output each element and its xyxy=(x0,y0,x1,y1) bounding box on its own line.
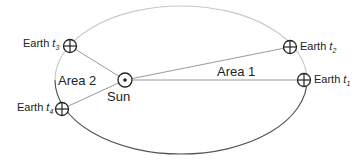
sun-label: Sun xyxy=(107,89,130,104)
time-subscript: 2 xyxy=(332,47,336,54)
earth-label-text: Earth xyxy=(23,37,49,49)
earth-t2-label: Earth t2 xyxy=(300,40,336,54)
earth-label-text: Earth xyxy=(314,73,340,85)
radius-t2 xyxy=(125,47,290,80)
earth-label-text: Earth xyxy=(17,101,43,113)
earth-t3-label: Earth t3 xyxy=(23,37,59,51)
earth-t4-label: Earth t4 xyxy=(17,101,53,115)
earth-symbol-icon xyxy=(64,40,77,53)
earth-symbol-icon xyxy=(56,103,69,116)
earth-t1-label: Earth t1 xyxy=(314,73,350,87)
area-1-label: Area 1 xyxy=(217,64,255,79)
sun-symbol-icon xyxy=(118,73,132,87)
time-subscript: 4 xyxy=(49,108,53,115)
time-subscript: 3 xyxy=(55,44,59,51)
time-subscript: 1 xyxy=(346,80,350,87)
orbit-diagram xyxy=(0,0,364,162)
earth-symbol-icon xyxy=(298,74,311,87)
orbit-lower xyxy=(55,80,307,154)
earth-label-text: Earth xyxy=(300,40,326,52)
earth-symbol-icon xyxy=(284,41,297,54)
area-2-label: Area 2 xyxy=(58,73,96,88)
